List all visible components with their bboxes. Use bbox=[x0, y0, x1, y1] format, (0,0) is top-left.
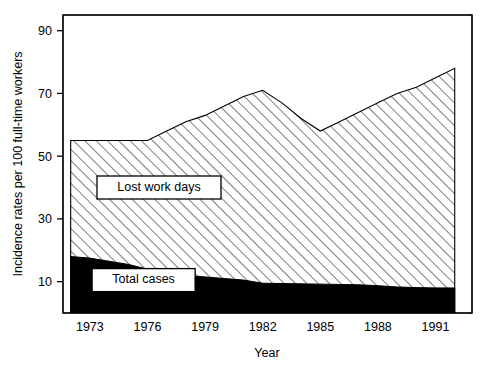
legend-lost-work-days: Lost work days bbox=[97, 176, 221, 199]
x-tick-label: 1988 bbox=[364, 320, 392, 334]
x-tick-label: 1976 bbox=[134, 320, 162, 334]
y-axis-title: Incidence rates per 100 full-time worker… bbox=[11, 51, 25, 276]
x-tick-label: 1979 bbox=[191, 320, 219, 334]
x-tick-label: 1985 bbox=[306, 320, 334, 334]
x-tick-label: 1973 bbox=[76, 320, 104, 334]
legend-total-cases-label: Total cases bbox=[112, 272, 175, 286]
y-tick-label: 90 bbox=[38, 24, 52, 38]
y-tick-label: 10 bbox=[38, 275, 52, 289]
y-tick-label: 30 bbox=[38, 212, 52, 226]
x-tick-label: 1991 bbox=[422, 320, 450, 334]
x-axis-title: Year bbox=[254, 346, 279, 360]
legend-total-cases: Total cases bbox=[92, 269, 195, 292]
legend-lost-work-days-label: Lost work days bbox=[117, 180, 200, 194]
chart-figure: 1030507090 1973197619791982198519881991 … bbox=[0, 0, 495, 377]
y-tick-label: 70 bbox=[38, 87, 52, 101]
y-tick-label: 50 bbox=[38, 150, 52, 164]
area-chart: 1030507090 1973197619791982198519881991 … bbox=[0, 0, 495, 377]
x-tick-label: 1982 bbox=[249, 320, 277, 334]
